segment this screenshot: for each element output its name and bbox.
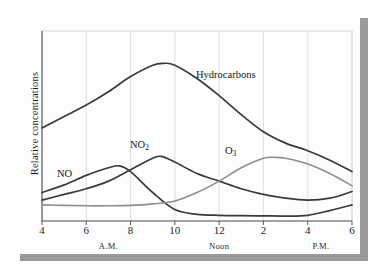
figure-card bbox=[14, 12, 360, 254]
curve-label-o3: O3 bbox=[225, 145, 236, 156]
x-axis-tick-2-5: 2 bbox=[250, 224, 276, 236]
x-axis-period-am: A.M. bbox=[80, 241, 136, 251]
x-axis-tick-6-7: 6 bbox=[339, 224, 365, 236]
x-axis-tick-10-3: 10 bbox=[162, 224, 188, 236]
x-axis-tick-4-6: 4 bbox=[295, 224, 321, 236]
x-axis-tick-4-0: 4 bbox=[29, 224, 55, 236]
curve-label-no: NO bbox=[57, 168, 72, 179]
x-axis-period-pm: P.M. bbox=[293, 241, 349, 251]
figure-container: Relative concentrations 4681012246 A.M.N… bbox=[0, 0, 378, 274]
x-axis-tick-6-1: 6 bbox=[73, 224, 99, 236]
curve-label-no2: NO2 bbox=[130, 139, 149, 150]
figure-shadow-right bbox=[359, 18, 368, 258]
x-axis-period-noon: Noon bbox=[191, 241, 247, 251]
x-axis-tick-8-2: 8 bbox=[118, 224, 144, 236]
curve-label-hydrocarbons: Hydrocarbons bbox=[196, 69, 255, 80]
y-axis-label: Relative concentrations bbox=[29, 44, 40, 204]
x-axis-tick-12-4: 12 bbox=[206, 224, 232, 236]
